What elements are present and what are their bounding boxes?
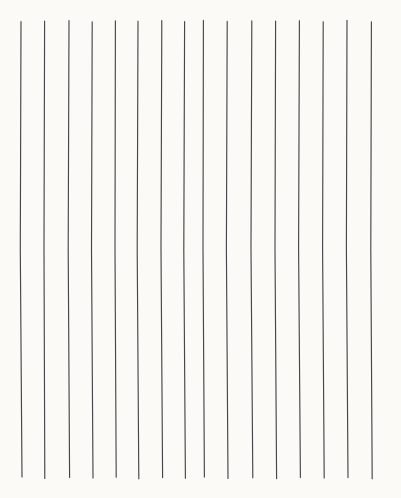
paper-surface — [0, 0, 401, 498]
drawing-canvas — [0, 0, 401, 498]
paper-background — [0, 0, 401, 498]
